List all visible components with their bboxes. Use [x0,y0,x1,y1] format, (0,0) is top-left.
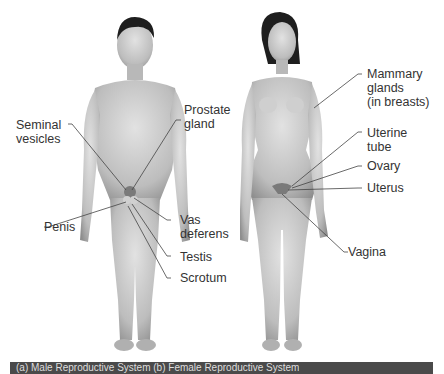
caption-text: (a) Male Reproductive System (b) Female … [16,362,299,373]
label-uterus: Uterus [367,181,404,195]
label-testis: Testis [180,250,212,264]
female-figure [240,12,362,351]
label-penis: Penis [44,220,75,234]
label-scrotum: Scrotum [180,271,227,285]
label-vagina: Vagina [348,245,386,259]
label-ovary: Ovary [367,159,400,173]
label-seminal-vesicles: Seminal vesicles [16,118,61,146]
label-prostate-gland: Prostate gland [184,103,231,131]
label-vas-deferens: Vas deferens [180,213,229,241]
label-uterine-tube: Uterine tube [367,126,407,154]
label-mammary-glands: Mammary glands (in breasts) [367,67,430,109]
male-figure [44,17,190,351]
caption-bar: (a) Male Reproductive System (b) Female … [10,362,433,374]
